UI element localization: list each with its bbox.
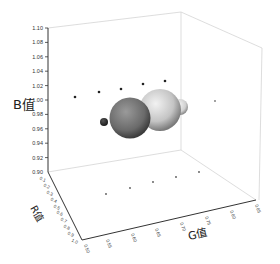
r-tick-label: 0.1 [39, 176, 47, 183]
g-tick-label: 0.65 [154, 228, 162, 238]
r-axis-title: R值 [28, 203, 47, 224]
r-tick-label: 0.6 [56, 210, 64, 217]
b-tick-label: 0.92 [32, 155, 43, 161]
r-tick-label: 0.4 [50, 197, 58, 204]
g-tick-label: 0.75 [204, 216, 212, 226]
r-tick-label: 0.3 [46, 190, 54, 197]
g-tick-label: 0.60 [130, 233, 138, 243]
g-tick-label: 0.80 [229, 210, 237, 220]
b-axis-title: B值 [13, 97, 35, 112]
r-tick-label: 0.7 [60, 217, 68, 224]
r-tick-label: 1.0 [71, 238, 79, 245]
g-axis-title: G值 [187, 226, 209, 243]
g-tick-label: 0.85 [254, 204, 262, 214]
b-tick-label: 0.98 [32, 111, 43, 117]
g-tick-label: 0.50 [83, 244, 91, 254]
g-tick-label: 0.70 [179, 222, 187, 232]
r-tick-label: 0.8 [63, 224, 71, 231]
b-tick-label: 1.04 [32, 68, 43, 74]
r-tick-label: 0.9 [67, 231, 75, 238]
b-tick-label: 1.08 [32, 39, 43, 45]
b-axis: 1.10 1.08 1.06 1.04 1.02 1.00 0.98 0.96 … [13, 25, 48, 175]
r-axis: 0.1 0.2 0.3 0.4 0.5 0.6 0.7 0.8 0.9 1.0 … [28, 172, 82, 245]
bubbles [100, 89, 188, 139]
b-tick-label: 1.06 [32, 54, 43, 60]
bubble-small-dark [100, 118, 108, 126]
g-tick-label: 0.55 [105, 239, 113, 249]
g-axis: 0.50 0.55 0.60 0.65 0.70 0.75 0.80 0.85 … [82, 200, 262, 254]
b-tick-label: 1.02 [32, 83, 43, 89]
b-tick-label: 0.94 [32, 140, 43, 146]
b-tick-label: 0.90 [32, 169, 43, 175]
3d-bubble-chart: 1.10 1.08 1.06 1.04 1.02 1.00 0.98 0.96 … [0, 0, 280, 264]
b-tick-label: 1.10 [32, 25, 43, 31]
floor-dots [105, 171, 200, 195]
r-tick-label: 0.2 [43, 183, 51, 190]
bubble-large-dark [110, 98, 151, 139]
b-tick-label: 0.96 [32, 126, 43, 132]
